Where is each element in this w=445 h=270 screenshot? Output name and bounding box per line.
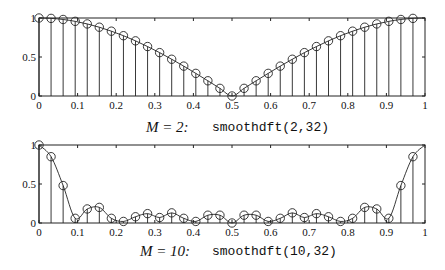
x-tick-label: 1: [422, 226, 428, 238]
top-caption-code: smoothdft(2,32): [212, 120, 329, 135]
bottom-caption-code: smoothdft(10,32): [212, 244, 337, 259]
x-tick-label: 0.3: [148, 226, 162, 238]
figure: 00.10.20.30.40.50.60.70.80.9100.51 M = 2…: [0, 0, 445, 270]
smooth-curve: [39, 18, 425, 96]
x-tick-label: 0.1: [71, 226, 85, 238]
x-tick-label: 0.1: [71, 99, 85, 111]
x-tick-label: 1: [422, 99, 428, 111]
y-tick-label: 0: [31, 90, 37, 102]
x-tick-label: 0.7: [302, 226, 316, 238]
top-caption-math: M = 2:: [145, 119, 189, 135]
x-tick-label: 0.6: [264, 226, 278, 238]
x-tick-label: 0.3: [148, 99, 162, 111]
axes-frame: [39, 18, 425, 96]
x-tick-label: 0.4: [187, 99, 201, 111]
x-tick-label: 0.9: [380, 226, 394, 238]
y-tick-label: 0.5: [22, 51, 36, 63]
x-tick-label: 0.9: [380, 99, 394, 111]
x-tick-label: 0.5: [225, 99, 239, 111]
x-tick-label: 0.6: [264, 99, 278, 111]
x-tick-label: 0: [36, 99, 42, 111]
x-tick-label: 0.2: [109, 226, 123, 238]
bottom-caption-math: M = 10:: [139, 243, 190, 259]
x-tick-label: 0.7: [302, 99, 316, 111]
bottom-stem-plot: 00.10.20.30.40.50.60.70.80.9100.51: [22, 139, 428, 238]
x-tick-label: 0: [36, 226, 42, 238]
y-tick-label: 0: [31, 217, 37, 229]
x-tick-label: 0.8: [341, 226, 355, 238]
x-tick-label: 0.5: [225, 226, 239, 238]
top-stem-plot: 00.10.20.30.40.50.60.70.80.9100.51: [22, 12, 428, 111]
y-tick-label: 0.5: [22, 178, 36, 190]
x-tick-label: 0.4: [187, 226, 201, 238]
x-tick-label: 0.2: [109, 99, 123, 111]
x-tick-label: 0.8: [341, 99, 355, 111]
